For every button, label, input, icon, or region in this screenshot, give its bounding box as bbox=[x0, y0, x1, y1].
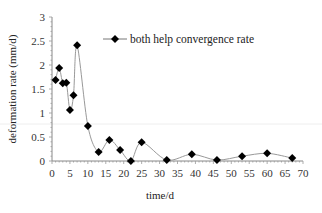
x-tick-label: 45 bbox=[208, 167, 220, 179]
x-tick-label: 30 bbox=[154, 167, 166, 179]
y-tick-label: 1.5 bbox=[31, 83, 45, 95]
y-tick-label: 0 bbox=[40, 155, 46, 167]
x-tick-label: 65 bbox=[280, 167, 292, 179]
x-tick-label: 25 bbox=[136, 167, 148, 179]
x-tick-label: 50 bbox=[226, 167, 238, 179]
x-axis-title: time/d bbox=[146, 189, 175, 201]
x-tick-label: 20 bbox=[118, 167, 130, 179]
x-tick-label: 10 bbox=[82, 167, 94, 179]
legend-label: both help convergence rate bbox=[130, 33, 254, 46]
x-tick-label: 35 bbox=[172, 167, 184, 179]
y-axis-title: deformation rate (mm/d) bbox=[6, 34, 19, 143]
y-tick-label: 1 bbox=[40, 107, 46, 119]
x-tick-label: 40 bbox=[190, 167, 202, 179]
y-tick-label: 2.5 bbox=[31, 35, 45, 47]
x-tick-label: 15 bbox=[100, 167, 112, 179]
line-chart: 00.511.522.53051015202530354045505560657… bbox=[0, 0, 322, 213]
y-tick-label: 3 bbox=[40, 11, 46, 23]
x-tick-label: 70 bbox=[298, 167, 310, 179]
y-tick-label: 0.5 bbox=[31, 131, 45, 143]
y-tick-label: 2 bbox=[40, 59, 46, 71]
x-tick-label: 60 bbox=[262, 167, 274, 179]
x-tick-label: 0 bbox=[49, 167, 55, 179]
x-tick-label: 5 bbox=[67, 167, 73, 179]
chart-background bbox=[0, 0, 322, 213]
x-tick-label: 55 bbox=[244, 167, 256, 179]
